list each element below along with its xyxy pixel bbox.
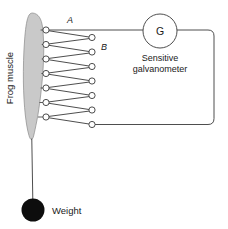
electrode-right-4 [89,78,95,84]
zigzag-return-3 [49,68,89,73]
zigzag-return-5 [49,97,89,102]
frog-muscle-label: Frog muscle [4,52,15,104]
electrode-right-1 [89,34,95,40]
weight-ball [22,199,45,222]
electrode-left-2 [43,41,49,47]
electrode-left-6 [43,99,49,105]
galvanometer-symbol-label: G [156,25,164,37]
zigzag-return-2 [49,53,89,58]
galvanometer-caption-line1: Sensitive [142,53,179,63]
zigzag-forward-6 [49,103,89,109]
electrode-left-7 [43,114,49,120]
zigzag-forward-5 [49,89,89,95]
frog-muscle-group [23,13,43,140]
electrode-right-6 [89,107,95,113]
frog-muscle-galvanometer-diagram: G Sensitive galvanometer A B Weight Frog… [0,0,228,229]
galvanometer-caption-line2: galvanometer [133,64,188,74]
electrode-right-7 [89,121,95,127]
zigzag-forward-3 [49,60,89,66]
frog-muscle-shape [23,13,43,140]
zigzag-series-wiring [49,31,89,124]
zigzag-return-1 [49,39,89,44]
electrode-left-5 [43,85,49,91]
zigzag-return-4 [49,82,89,87]
electrode-right-5 [89,92,95,98]
zigzag-forward-4 [49,74,89,80]
electrode-left-3 [43,56,49,62]
terminal-b-label: B [101,42,107,52]
electrode-left-4 [43,70,49,76]
zigzag-forward-2 [49,45,89,51]
galvanometer-group: G Sensitive galvanometer [133,14,188,74]
electrode-right-2 [89,49,95,55]
zigzag-forward-1 [49,31,89,37]
diagram-canvas: G Sensitive galvanometer A B Weight Frog… [0,0,228,229]
terminal-a-label: A [66,15,73,25]
zigzag-return-6 [49,111,89,116]
electrode-left-1 [43,27,49,33]
galvanometer-circuit [49,30,214,125]
zigzag-forward-7 [49,118,89,124]
suspension-thread [32,139,33,200]
electrode-right-3 [89,63,95,69]
weight-label: Weight [52,205,82,216]
